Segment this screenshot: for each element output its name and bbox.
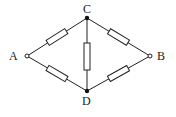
label-a: A (9, 49, 18, 63)
label-c: C (83, 2, 91, 16)
bridge-circuit-diagram: A B C D (0, 0, 176, 117)
resistor-d-b (87, 56, 150, 91)
resistor-a-c (27, 18, 87, 56)
resistor-a-d (27, 56, 87, 91)
resistor-c-b (87, 18, 150, 56)
junction-c (85, 16, 89, 20)
terminal-a (25, 54, 29, 58)
resistor-c-d (84, 18, 90, 91)
label-b: B (157, 49, 165, 63)
junction-d (85, 89, 89, 93)
terminal-b (148, 54, 152, 58)
label-d: D (82, 94, 91, 108)
